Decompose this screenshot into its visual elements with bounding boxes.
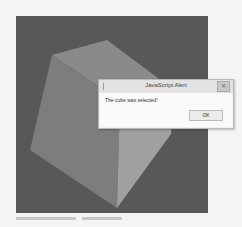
- alert-message: The cube was selected!: [105, 97, 158, 103]
- caption-fragment: [82, 217, 122, 220]
- caption-fragment: [16, 217, 76, 220]
- dialog-titlebar[interactable]: JavaScript Alert ✕: [99, 80, 233, 93]
- caption-text-blurred: [16, 214, 216, 222]
- ok-button[interactable]: OK: [189, 110, 223, 121]
- dialog-body: The cube was selected! OK: [100, 93, 232, 127]
- close-icon: ✕: [221, 83, 226, 89]
- close-button[interactable]: ✕: [217, 81, 230, 92]
- javascript-alert-dialog: JavaScript Alert ✕ The cube was selected…: [98, 79, 234, 129]
- dialog-title: JavaScript Alert: [99, 82, 233, 88]
